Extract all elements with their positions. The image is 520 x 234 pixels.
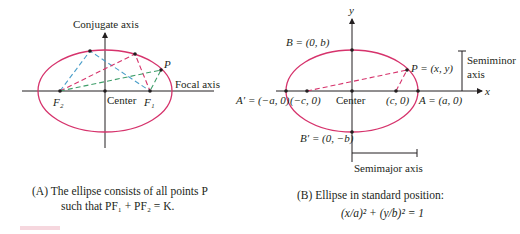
p-a-label: P — [163, 58, 171, 70]
p-b-label: P = (x, y) — [410, 62, 453, 75]
x-axis-label: x — [484, 85, 490, 97]
center-b-label: Center — [336, 94, 366, 106]
a-label: A = (a, 0) — [418, 94, 463, 107]
caption-a-line2: such that PF₁ + PF₂ = K. — [32, 199, 252, 214]
semiminor-label-axis: axis — [467, 68, 485, 80]
f1-label: F₁ — [143, 96, 155, 108]
caption-b: (B) Ellipse in standard position: (x/a)²… — [297, 188, 517, 203]
f2-label: F₂ — [52, 96, 64, 108]
ellipse-equation: (x/a)² + (y/b)² = 1 — [341, 206, 424, 221]
dashed-negc-to-p — [307, 70, 407, 91]
center-a-label: Center — [107, 94, 137, 106]
point-f2 — [58, 89, 62, 93]
point-a — [416, 89, 420, 93]
figure-a: Conjugate axis Focal axis F₂ Center F₁ P — [22, 18, 220, 148]
neg-c-label: (−c, 0) — [290, 94, 321, 107]
point-blue-top — [88, 49, 92, 53]
cropped-figure-caption-remnant — [20, 226, 60, 230]
point-f1 — [148, 89, 152, 93]
y-axis-label: y — [348, 4, 354, 16]
point-center-b — [350, 89, 354, 93]
point-neg-c — [305, 89, 309, 93]
caption-a: (A) The ellipse consists of all points P… — [32, 184, 252, 214]
dashed-c-to-p — [396, 70, 407, 91]
semimajor-label: Semimajor axis — [354, 162, 423, 174]
focal-axis-label: Focal axis — [175, 78, 220, 90]
point-c — [394, 89, 398, 93]
figure-b: y x B = (0, b) B′ = (0, −b) A′ = (−a, 0)… — [235, 4, 516, 174]
semiminor-bar — [458, 51, 466, 91]
caption-a-line1: (A) The ellipse consists of all points P — [32, 184, 252, 199]
a-prime-label: A′ = (−a, 0) — [235, 94, 290, 107]
b-prime-label: B′ = (0, −b) — [300, 132, 354, 145]
point-p-a — [159, 68, 163, 72]
point-b — [350, 48, 354, 52]
point-p-b — [405, 68, 409, 72]
caption-b-line1: (B) Ellipse in standard position: — [297, 188, 517, 203]
point-center-a — [103, 89, 107, 93]
c-label: (c, 0) — [386, 94, 410, 107]
conjugate-axis-label: Conjugate axis — [73, 18, 139, 30]
semiminor-label: Semiminor — [467, 54, 516, 66]
semimajor-bar — [352, 149, 417, 157]
point-pink-top — [133, 52, 137, 56]
point-a-prime — [284, 89, 288, 93]
b-label: B = (0, b) — [286, 36, 330, 49]
